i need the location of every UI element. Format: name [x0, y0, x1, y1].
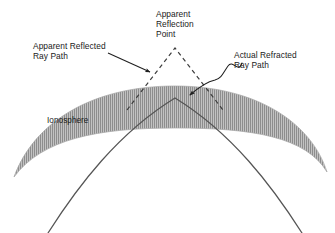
label-actual-refracted-ray-path: Actual Refracted Ray Path	[234, 50, 297, 70]
leader-apparent-reflected-arrow	[108, 53, 150, 72]
ionosphere-band	[14, 86, 327, 177]
ionosphere-refraction-figure: Apparent Reflection Point Apparent Refle…	[0, 0, 335, 233]
label-ionosphere: Ionosphere	[47, 116, 88, 126]
label-apparent-reflected-ray-path: Apparent Reflected Ray Path	[33, 41, 106, 61]
label-apparent-reflection-point: Apparent Reflection Point	[156, 9, 194, 40]
